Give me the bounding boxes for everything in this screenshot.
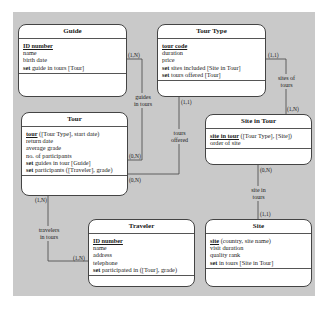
attribute: visit duration — [210, 244, 307, 251]
relationship-label-sites-of-tours: sites oftours — [272, 74, 301, 89]
edge-guides-in-tours — [127, 59, 142, 160]
key-attribute: tour — [26, 130, 38, 137]
set-attribute: set in tours [Site in Tour] — [210, 259, 307, 266]
entity-tour[interactable]: Tour tour ([Tour Type], start date) retu… — [21, 112, 128, 196]
attribute: quality rank — [210, 251, 307, 258]
entity-title: Site — [206, 220, 311, 234]
attribute: no. of participants — [26, 152, 123, 159]
cardinality-tourtype-sites: (1,1) — [268, 52, 279, 58]
entity-title: Tour — [22, 113, 127, 127]
key-attribute: ID number — [93, 237, 123, 244]
entity-attributes: tour ([Tour Type], start date) return da… — [22, 127, 127, 176]
entity-attributes: ID number name birth date set guide in t… — [19, 39, 126, 74]
attribute: name — [23, 49, 122, 56]
cardinality-site-siteintour: (1,1) — [260, 211, 271, 217]
attribute: price — [162, 56, 261, 63]
cardinality-traveler-travelers: (1,N) — [73, 255, 85, 261]
entity-tour-type[interactable]: Tour Type tour code duration price set s… — [157, 24, 266, 97]
entity-site[interactable]: Site site (country, site name) visit dur… — [205, 219, 312, 287]
cardinality-guide-guides: (1,N) — [128, 52, 140, 58]
cardinality-siteintour-sites: (1,N) — [287, 106, 299, 112]
attribute: birth date — [23, 56, 122, 63]
cardinality-siteintour-site: (0,N) — [260, 167, 272, 173]
cardinality-tour-offered: (0,N) — [129, 177, 141, 183]
key-attribute: site in tour — [210, 132, 239, 139]
set-attribute: set guide in tours [Tour] — [23, 64, 122, 71]
attribute: telephone — [93, 259, 190, 266]
set-attribute: set sites included [Site in Tour] — [162, 64, 261, 71]
relationship-label-guides-in-tours: guidesin tours — [130, 93, 156, 108]
entity-title: Traveler — [89, 220, 194, 234]
set-attribute: set participated in ([Tour], grade) — [93, 266, 190, 273]
relationship-label-travelers-in-tours: travelersin tours — [34, 226, 64, 241]
entity-site-in-tour[interactable]: Site in Tour site in tour ([Tour Type], … — [205, 114, 312, 165]
set-attribute: set guides in tour [Guide] — [26, 159, 123, 166]
entity-traveler[interactable]: Traveler ID number name address telephon… — [88, 219, 195, 287]
cardinality-tour-travelers: (1,N) — [35, 197, 47, 203]
entity-title: Tour Type — [158, 25, 265, 39]
entity-guide[interactable]: Guide ID number name birth date set guid… — [18, 24, 127, 97]
attribute: return date — [26, 137, 123, 144]
attribute: duration — [162, 49, 261, 56]
entity-attributes: site (country, site name) visit duration… — [206, 234, 311, 269]
set-attribute: set tours offered [Tour] — [162, 71, 261, 78]
key-attribute: ID number — [23, 42, 53, 49]
attribute: address — [93, 251, 190, 258]
relationship-label-site-in-tours: site intours — [246, 186, 271, 201]
attribute: average grade — [26, 144, 123, 151]
cardinality-tour-guides: (0,N) — [129, 153, 141, 159]
entity-title: Site in Tour — [206, 115, 311, 129]
entity-attributes: tour code duration price set sites inclu… — [158, 39, 265, 81]
entity-attributes: site in tour ([Tour Type], [Site]) order… — [206, 129, 311, 149]
cardinality-tourtype-offered: (1,1) — [181, 99, 192, 105]
attribute: name — [93, 244, 190, 251]
entity-attributes: ID number name address telephone set par… — [89, 234, 194, 276]
entity-title: Guide — [19, 25, 126, 39]
attribute: order of site — [210, 139, 307, 146]
key-attribute: tour code — [162, 42, 187, 49]
key-attribute: site — [210, 237, 219, 244]
relationship-label-tours-offered: toursoffered — [167, 129, 192, 144]
set-attribute: set participants ([Traveler], grade) — [26, 166, 123, 173]
